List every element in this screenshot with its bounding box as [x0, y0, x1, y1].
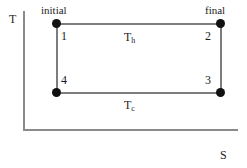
state-point-4-dot — [52, 88, 61, 97]
state-point-3-dot — [216, 88, 225, 97]
state-number-1: 1 — [61, 30, 67, 42]
adiabat-left-edge — [56, 23, 58, 94]
temperature-axis-line — [23, 11, 25, 131]
adiabat-right-edge — [220, 23, 222, 94]
state-number-2: 2 — [205, 30, 211, 42]
ts-diagram-figure: T S initial final 1 2 3 4 Th Tc — [0, 0, 247, 168]
isotherm-hot-edge — [57, 23, 222, 25]
hot-isotherm-subscript: h — [131, 36, 135, 45]
final-state-caption: final — [205, 5, 225, 16]
state-point-2-dot — [216, 19, 225, 28]
initial-state-caption: initial — [41, 5, 67, 16]
cold-isotherm-subscript: c — [131, 104, 135, 113]
entropy-axis-label: S — [220, 149, 227, 161]
state-number-4: 4 — [61, 74, 67, 86]
isotherm-cold-edge — [57, 92, 222, 94]
state-point-1-dot — [52, 19, 61, 28]
state-number-3: 3 — [205, 74, 211, 86]
cold-isotherm-label: Tc — [124, 99, 135, 111]
entropy-axis-line — [23, 129, 238, 131]
hot-isotherm-label: Th — [124, 31, 135, 43]
temperature-axis-label: T — [9, 13, 16, 25]
